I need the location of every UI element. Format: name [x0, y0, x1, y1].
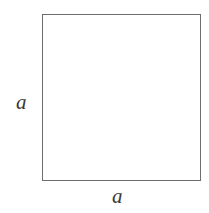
- left-side-label: a: [16, 92, 27, 113]
- bottom-side-label: a: [112, 186, 123, 207]
- square-shape: [42, 14, 201, 181]
- square-diagram: a a: [0, 0, 209, 213]
